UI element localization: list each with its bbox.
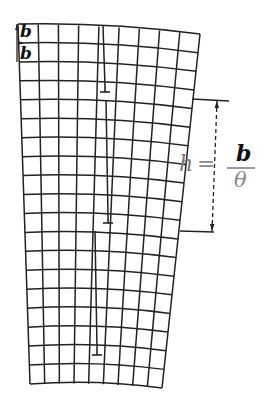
spacing-dimension <box>15 24 229 232</box>
spacing-h-label: h <box>179 153 193 175</box>
lattice-grid <box>18 24 200 388</box>
equals-sign: = <box>197 153 215 175</box>
fraction-denominator-theta: θ <box>234 170 247 191</box>
fraction-numerator-b: b <box>236 142 251 164</box>
burgers-vector-label-1: b <box>20 23 32 40</box>
burgers-vector-label-2: b <box>20 45 32 62</box>
tilt-boundary-diagram <box>0 0 261 407</box>
